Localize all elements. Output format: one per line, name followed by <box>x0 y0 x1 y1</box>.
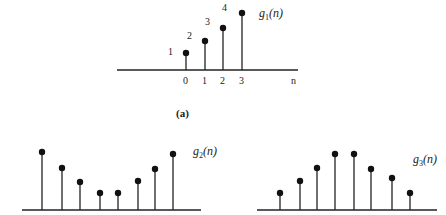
sample-dot <box>170 151 176 157</box>
sample-dot <box>59 165 65 171</box>
sample-dot <box>351 151 357 157</box>
function-label-g3: g3(n) <box>413 152 437 168</box>
sample-dot <box>297 178 303 184</box>
sample-dot <box>389 175 395 181</box>
sample-dot <box>202 38 208 44</box>
tick-label: 2 <box>220 75 225 86</box>
tick-label: 3 <box>239 75 244 86</box>
panel-a-stems <box>183 10 245 70</box>
sample-dot <box>183 50 189 56</box>
panel-a-caption: (a) <box>176 107 189 120</box>
sample-dot <box>368 166 374 172</box>
panel-a-tick-labels: 0 1 2 3 n <box>183 75 296 86</box>
value-label: 4 <box>222 2 227 13</box>
panel-b-g2: g2(n) <box>22 144 217 210</box>
sample-dot <box>332 151 338 157</box>
sample-dot <box>135 178 141 184</box>
value-label: 3 <box>205 16 210 27</box>
sample-dot <box>115 190 121 196</box>
tick-label: 1 <box>202 75 207 86</box>
sample-dot <box>97 190 103 196</box>
sample-dot <box>39 149 45 155</box>
axis-label-n: n <box>291 75 296 86</box>
value-label: 2 <box>187 30 192 41</box>
panel-c-stems <box>277 151 413 210</box>
value-label: 1 <box>168 46 173 57</box>
sample-dot <box>314 165 320 171</box>
tick-label: 0 <box>183 75 188 86</box>
sample-dot <box>407 190 413 196</box>
function-label-g1: g1(n) <box>259 6 283 22</box>
sample-dot <box>277 190 283 196</box>
panel-c-g3: g3(n) <box>257 151 437 210</box>
panel-a-g1: 1 2 3 4 0 1 2 3 n g1(n) (a) <box>117 2 298 120</box>
function-label-g2: g2(n) <box>193 144 217 160</box>
stem-plot-diagram: 1 2 3 4 0 1 2 3 n g1(n) (a) g2(n) <box>0 0 446 215</box>
sample-dot <box>77 179 83 185</box>
panel-b-stems <box>39 149 176 210</box>
sample-dot <box>220 25 226 31</box>
sample-dot <box>152 166 158 172</box>
sample-dot <box>239 10 245 16</box>
panel-a-value-labels: 1 2 3 4 <box>168 2 227 57</box>
